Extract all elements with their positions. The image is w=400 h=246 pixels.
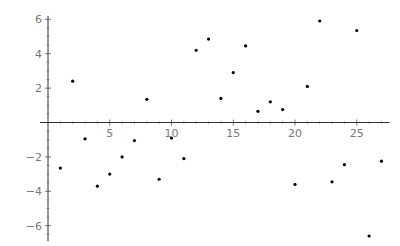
data-point	[244, 44, 247, 47]
x-tick-label: 25	[350, 127, 364, 140]
y-tick-label: −2	[26, 151, 42, 164]
data-point	[71, 80, 74, 83]
data-point	[269, 100, 272, 103]
data-point	[330, 180, 333, 183]
data-point	[368, 234, 371, 237]
y-tick-labels: −6−4−2246	[26, 13, 42, 232]
data-point	[306, 85, 309, 88]
y-tick-label: 4	[35, 48, 42, 61]
data-point	[83, 137, 86, 140]
data-point	[232, 71, 235, 74]
x-tick-labels: 510152025	[106, 127, 364, 140]
data-point	[293, 183, 296, 186]
data-point	[343, 163, 346, 166]
y-tick-label: −6	[26, 220, 42, 233]
data-point	[158, 178, 161, 181]
data-point	[133, 139, 136, 142]
data-point	[96, 185, 99, 188]
x-tick-label: 15	[226, 127, 240, 140]
data-point	[145, 98, 148, 101]
data-point	[207, 37, 210, 40]
x-tick-label: 20	[288, 127, 302, 140]
y-tick-label: 6	[35, 13, 42, 26]
data-point	[318, 19, 321, 22]
x-tick-label: 5	[106, 127, 113, 140]
scatter-plot: 510152025 −6−4−2246	[0, 0, 400, 246]
data-point	[59, 166, 62, 169]
data-point	[108, 173, 111, 176]
data-point	[355, 29, 358, 32]
data-point	[170, 136, 173, 139]
data-point	[380, 160, 383, 163]
data-point	[219, 97, 222, 100]
minor-ticks	[47, 28, 382, 234]
data-point	[195, 49, 198, 52]
y-tick-label: −4	[26, 185, 42, 198]
y-tick-label: 2	[35, 82, 42, 95]
data-point	[256, 110, 259, 113]
data-point	[281, 108, 284, 111]
data-point	[121, 155, 124, 158]
data-point	[182, 157, 185, 160]
